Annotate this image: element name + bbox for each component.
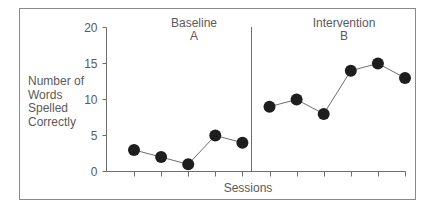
data-point-marker	[372, 58, 384, 70]
y-axis-label: Number ofWordsSpelledCorrectly	[28, 74, 85, 129]
y-axis-label-line: Number of	[28, 74, 85, 88]
data-point-marker	[182, 158, 194, 170]
y-tick-label: 15	[84, 57, 98, 71]
data-point-marker	[399, 72, 411, 84]
phase-letter: A	[190, 29, 198, 43]
data-series	[128, 58, 411, 171]
y-tick-label: 0	[91, 165, 98, 179]
y-tick-label: 5	[91, 129, 98, 143]
data-point-marker	[209, 130, 221, 142]
y-tick-label: 10	[84, 93, 98, 107]
x-axis	[107, 172, 406, 177]
data-point-marker	[291, 94, 303, 106]
data-point-marker	[155, 151, 167, 163]
y-axis-label-line: Spelled	[28, 101, 68, 115]
data-point-marker	[318, 108, 330, 120]
y-axis-label-line: Correctly	[28, 115, 76, 129]
phase-name: Baseline	[171, 16, 217, 30]
chart-frame	[20, 9, 416, 200]
data-point-marker	[345, 65, 357, 77]
x-axis-label: Sessions	[224, 181, 273, 195]
data-point-marker	[264, 101, 276, 113]
phase-letter: B	[340, 29, 348, 43]
y-axis: 05101520	[84, 21, 106, 179]
phase-labels: BaselineAInterventionB	[171, 16, 375, 43]
data-point-marker	[236, 137, 248, 149]
phase-line	[270, 64, 406, 114]
phase-name: Intervention	[313, 16, 376, 30]
data-point-marker	[128, 144, 140, 156]
y-tick-label: 20	[84, 21, 98, 35]
single-subject-design-chart: 05101520 Number ofWordsSpelledCorrectly …	[0, 0, 430, 209]
y-axis-label-line: Words	[28, 88, 62, 102]
